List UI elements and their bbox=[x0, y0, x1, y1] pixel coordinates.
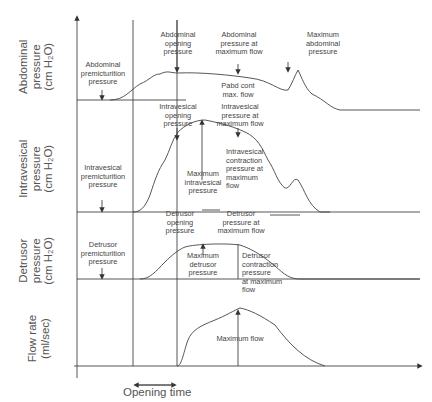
abd-premicturition-label: Abdominal premicturition pressure bbox=[78, 61, 128, 87]
abd-opening-label: Abdominal opening pressure bbox=[152, 31, 204, 57]
det-max-label: Maximum detrusor pressure bbox=[180, 252, 226, 278]
abd-max-label: Maximum abdominal pressure bbox=[298, 31, 348, 57]
det-opening-label: Detrusor opening pressure bbox=[157, 210, 203, 236]
flow-rate-axis-label: Flow rate (ml/sec) bbox=[26, 299, 51, 379]
opening-time-label: Opening time bbox=[123, 386, 191, 398]
max-flow-label: Maximum flow bbox=[212, 335, 268, 344]
ves-at-max-flow-label: Intravesical pressure at maximum flow bbox=[212, 103, 268, 129]
det-contraction-label: Detrusor contraction pressure at maximum… bbox=[242, 252, 294, 295]
detrusor-pressure-axis-label: Detrusor pressure (cm H₂O) bbox=[17, 221, 55, 301]
ves-premicturition-label: Intravesical premicturition pressure bbox=[78, 164, 128, 190]
ves-contraction-label: Intravesical contraction pressure at max… bbox=[226, 148, 272, 191]
pabd-cont-label: Pabd cont max. flow bbox=[214, 82, 262, 99]
abd-at-max-flow-label: Abdominal pressure at maximum flow bbox=[212, 31, 266, 57]
ves-opening-label: Intravesical opening pressure bbox=[152, 103, 204, 129]
det-at-max-flow-label: Detrusor pressure at maximum flow bbox=[214, 210, 268, 236]
intravesical-pressure-axis-label: Intravesical pressure (cm H₂O) bbox=[17, 129, 55, 209]
ves-max-label: Maximum intravesical pressure bbox=[180, 170, 226, 196]
abdominal-pressure-axis-label: Abdominal pressure (cm H₂O) bbox=[17, 27, 55, 107]
det-premicturition-label: Detrusor premicturition pressure bbox=[78, 241, 128, 267]
